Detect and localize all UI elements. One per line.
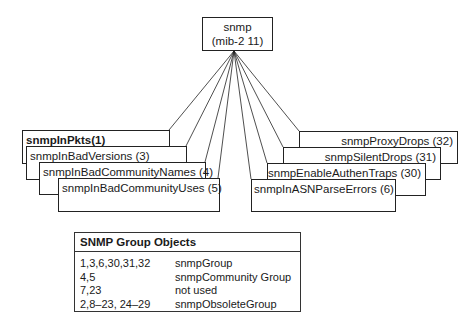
node-label: snmpInBadVersions (3) — [30, 150, 150, 162]
group-objects-legend: SNMP Group Objects 1,3,6,30,31,32 snmpGr… — [74, 232, 301, 312]
legend-ids: 4,5 — [80, 271, 175, 285]
legend-ids: 7,23 — [80, 284, 175, 298]
legend-group: snmpObsoleteGroup — [175, 298, 277, 312]
node-label: snmpInASNParseErrors (6) — [254, 183, 394, 195]
node-label: snmpProxyDrops (32) — [341, 135, 453, 147]
legend-row: 1,3,6,30,31,32 snmpGroup — [80, 257, 300, 271]
legend-ids: 2,8–23, 24–29 — [80, 298, 175, 312]
legend-row: 4,5 snmpCommunity Group — [80, 271, 300, 285]
legend-row: 2,8–23, 24–29 snmpObsoleteGroup — [80, 298, 300, 312]
snmp-root-node: snmp (mib-2 11) — [202, 17, 273, 51]
legend-row: 7,23 not used — [80, 284, 300, 298]
node-label: snmpEnableAuthenTraps (30) — [268, 167, 421, 179]
legend-title: SNMP Group Objects — [75, 233, 300, 252]
node-snmpInBadCommunityUses: snmpInBadCommunityUses (5) — [58, 178, 220, 212]
node-snmpInASNParseErrors: snmpInASNParseErrors (6) — [251, 179, 396, 212]
legend-group: snmpGroup — [175, 257, 232, 271]
legend-ids: 1,3,6,30,31,32 — [80, 257, 175, 271]
node-label: snmpInBadCommunityNames (4) — [43, 166, 213, 178]
root-label: snmp — [203, 20, 272, 34]
legend-group: snmpCommunity Group — [175, 271, 291, 285]
legend-group: not used — [175, 284, 217, 298]
root-oid: (mib-2 11) — [203, 34, 272, 48]
node-label: snmpInPkts(1) — [26, 134, 105, 146]
node-label: snmpInBadCommunityUses (5) — [62, 182, 222, 194]
node-label: snmpSilentDrops (31) — [325, 151, 436, 163]
